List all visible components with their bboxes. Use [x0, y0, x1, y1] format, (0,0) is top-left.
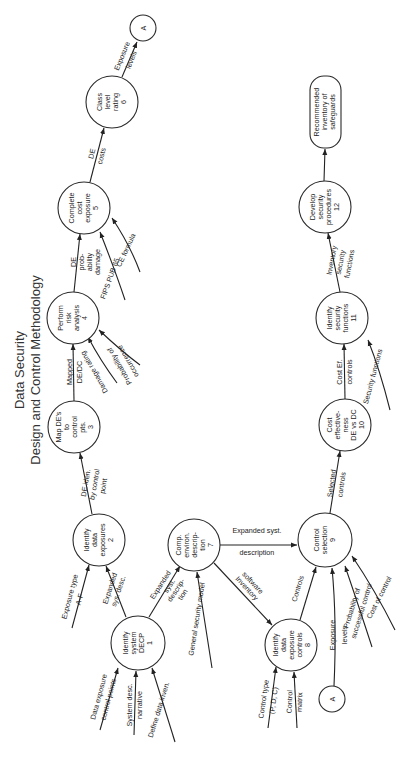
label-e4-5: DE prob- ability damage — [69, 249, 102, 275]
svg-text:4: 4 — [80, 316, 89, 320]
node-1-identify-system-decp[interactable]: Identify system DECP 1 — [111, 616, 165, 670]
svg-text:point: point — [98, 478, 110, 495]
label-e2-3: DE iden. by control point — [78, 466, 110, 502]
label-e11-12: Inventory security functions — [324, 245, 356, 280]
node-8-identify-data-exposure-controls[interactable]: Identify data exposure controls 8 — [265, 619, 317, 671]
svg-text:Exposure: Exposure — [328, 620, 337, 650]
svg-text:description: description — [240, 548, 275, 557]
label-in8b: Control matrix — [285, 690, 305, 714]
node-2-identify-data-exposures[interactable]: Identify data exposures 2 — [73, 514, 125, 566]
svg-text:3: 3 — [86, 425, 95, 429]
svg-text:A-F: A-F — [74, 592, 86, 606]
svg-text:costs: costs — [95, 146, 108, 165]
node-5-complete-cost-exposure[interactable]: Complete cost exposure 5 — [58, 182, 110, 234]
methodology-diagram: Data Security Design and Control Methodo… — [0, 0, 416, 764]
svg-text:A: A — [139, 25, 148, 30]
svg-text:CE formula: CE formula — [114, 232, 137, 268]
svg-text:12: 12 — [332, 203, 341, 211]
label-in1a: Data exposure control points — [88, 673, 118, 723]
svg-text:5: 5 — [91, 206, 100, 210]
label-e10-11: Cost Ef. controls — [335, 359, 354, 385]
label-e6-a: Exposure levels — [112, 40, 141, 75]
svg-text:narrative: narrative — [135, 691, 144, 719]
label-e8-9: Controls — [289, 574, 306, 603]
label-in4b: Probability of occurrence — [105, 341, 142, 386]
edge-12-to-output — [324, 149, 325, 181]
label-e7-9: Expanded syst. description — [232, 526, 281, 557]
label-e1-2: Expanded sys. desc. — [100, 572, 127, 608]
svg-text:matrix: matrix — [295, 692, 305, 712]
svg-text:Cost Ef.: Cost Ef. — [335, 359, 344, 385]
connector-a-bottom[interactable]: A — [319, 686, 345, 712]
node-6-class-level-rating[interactable]: Class level rating 6 — [86, 76, 138, 128]
svg-text:9: 9 — [328, 538, 337, 542]
svg-text:10: 10 — [357, 421, 366, 429]
svg-text:6: 6 — [119, 100, 128, 104]
svg-text:System desc.: System desc. — [125, 683, 134, 726]
title-line-2: Design and Control Methodology — [28, 275, 43, 465]
svg-text:11: 11 — [349, 314, 358, 321]
svg-text:controls: controls — [345, 359, 354, 385]
svg-text:Control: Control — [285, 690, 295, 714]
node-11-identify-security-functions[interactable]: Identify security functions 11 — [316, 292, 368, 344]
svg-text:1: 1 — [145, 641, 154, 645]
svg-text:2: 2 — [106, 538, 115, 542]
svg-text:7: 7 — [206, 543, 215, 547]
svg-text:Expanded syst.: Expanded syst. — [232, 526, 281, 535]
svg-text:Mapped: Mapped — [65, 359, 74, 385]
node-9-control-selection[interactable]: Control selection 9 — [298, 513, 352, 567]
svg-text:safeguards: safeguards — [328, 94, 337, 130]
label-e5-6: DE costs — [85, 144, 108, 165]
svg-text:Controls: Controls — [289, 574, 306, 603]
svg-text:8: 8 — [303, 643, 312, 647]
svg-text:DE/DC: DE/DC — [75, 361, 84, 383]
node-12-develop-security-procedures[interactable]: Develop security procedures 12 — [299, 181, 351, 233]
label-e9-10: Selected controls — [325, 469, 348, 499]
node-7-comp-environ-description[interactable]: Comp. environ. descrip- tion 7 — [168, 519, 220, 571]
diagram-title: Data Security Design and Control Methodo… — [12, 275, 43, 465]
label-in8a: Control type (P, D, C) — [256, 679, 280, 720]
label-e7-8: Inventory software — [234, 569, 267, 603]
node-3-map-des-to-control-pts[interactable]: Map DE's to control pts. 3 — [48, 401, 100, 453]
edge-8-to-9 — [300, 567, 316, 620]
svg-text:damage: damage — [93, 249, 102, 275]
node-10-cost-effectiveness[interactable]: Cost effective- ness DE vs DC 10 — [319, 399, 371, 451]
output-recommended-inventory[interactable]: Recommended inventory of safeguards — [310, 76, 341, 148]
title-line-1: Data Security — [12, 330, 27, 409]
connector-a-top[interactable]: A — [130, 15, 156, 41]
label-in5b: CE formula — [114, 232, 137, 268]
label-e3-4: Mapped DE/DC — [65, 359, 84, 385]
node-4-perform-risk-analysis[interactable]: Perform risk analysis 4 — [47, 292, 99, 344]
svg-text:A: A — [328, 696, 337, 701]
